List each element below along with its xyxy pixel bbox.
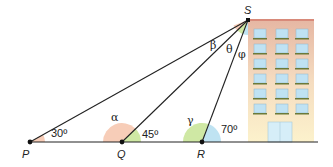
angle-label-R: 70º: [221, 123, 237, 135]
label-Q: Q: [117, 148, 126, 160]
building-door: [268, 122, 292, 142]
angle-label-alpha: α: [111, 111, 119, 124]
point-R: [200, 140, 205, 145]
point-S: [246, 18, 250, 22]
triangle-diagram: P Q R S 30º 45º 70º α γ β θ φ: [0, 0, 333, 167]
angle-label-P: 30º: [51, 127, 67, 139]
label-P: P: [22, 148, 30, 160]
label-S: S: [244, 4, 252, 16]
angle-label-gamma: γ: [187, 114, 194, 127]
angle-label-beta: β: [210, 39, 216, 52]
angle-label-Q: 45º: [142, 128, 158, 140]
point-Q: [120, 140, 125, 145]
angle-label-phi: φ: [238, 48, 246, 61]
angle-label-theta: θ: [226, 43, 233, 56]
building: [248, 19, 314, 142]
point-P: [28, 140, 33, 145]
label-R: R: [197, 148, 205, 160]
